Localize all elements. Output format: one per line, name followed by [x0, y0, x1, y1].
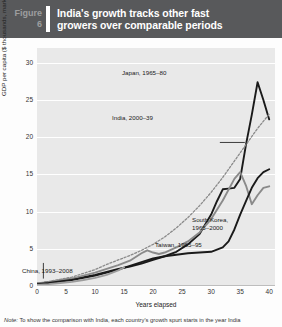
x-tick-label: 30 [208, 288, 215, 295]
y-tick-label: 30 [8, 59, 33, 66]
x-tick-label: 0 [35, 288, 39, 295]
note-prefix: Note: [4, 317, 18, 323]
header-divider-rule [46, 6, 50, 32]
figure-title-line-1: India's growth tracks other fast [57, 7, 223, 20]
y-tick-label: 10 [8, 208, 33, 215]
x-tick-label: 40 [266, 288, 273, 295]
x-tick-label: 5 [64, 288, 68, 295]
annotation-south-korea-line-1: South Korea, [192, 216, 228, 223]
x-tick-label: 25 [178, 288, 185, 295]
figure-header: Figure 6 India's growth tracks other fas… [0, 0, 282, 38]
annotation-south-korea-line-2: 1965–2000 [192, 224, 223, 231]
figure-root: Figure 6 India's growth tracks other fas… [0, 0, 282, 327]
gridline [37, 286, 275, 287]
figure-title-line-2: growers over comparable periods [57, 19, 223, 32]
y-tick-label: 0 [8, 282, 33, 289]
annotation-china: China, 1993–2008 [22, 267, 73, 275]
y-tick-label: 5 [8, 245, 33, 252]
x-tick-label: 10 [91, 288, 98, 295]
y-tick-label: 20 [8, 133, 33, 140]
x-axis-label: Years elapsed [37, 301, 275, 308]
figure-note: Note: To show the comparison with India,… [4, 316, 280, 324]
figure-title: India's growth tracks other fast growers… [57, 7, 223, 32]
x-tick-label: 15 [120, 288, 127, 295]
y-axis-ticks: 051015202530 [0, 48, 282, 286]
chart-area: GDP per capita ($ thousands, market exch… [0, 38, 282, 327]
y-tick-label: 25 [8, 96, 33, 103]
y-tick-label: 15 [8, 170, 33, 177]
x-tick-label: 35 [237, 288, 244, 295]
annotation-japan: Japan, 1965–80 [122, 69, 166, 77]
annotation-south-korea: South Korea, 1965–2000 [192, 216, 228, 231]
annotation-india: India, 2000–39 [112, 114, 153, 122]
note-text: To show the comparison with India, each … [19, 317, 240, 323]
annotation-taiwan: Taiwan, 1965–95 [155, 241, 202, 249]
x-tick-label: 20 [149, 288, 156, 295]
x-axis-ticks: 0510152025303540 [37, 288, 275, 300]
